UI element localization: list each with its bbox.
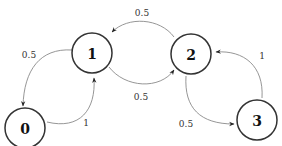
edge-2-to-1-path bbox=[112, 21, 174, 37]
edge-1-to-0-label: 0.5 bbox=[22, 50, 37, 60]
state-diagram: 0.5 1 0.5 0.5 0.5 1 0 1 2 3 bbox=[0, 0, 282, 146]
edge-1-to-2: 0.5 bbox=[109, 67, 174, 102]
node-3: 3 bbox=[237, 100, 277, 140]
edge-2-to-3-path bbox=[186, 76, 234, 124]
node-0: 0 bbox=[5, 108, 45, 146]
edge-0-to-1: 1 bbox=[47, 78, 94, 128]
node-3-label: 3 bbox=[252, 113, 262, 129]
node-1: 1 bbox=[72, 33, 112, 73]
node-1-label: 1 bbox=[87, 46, 97, 62]
edge-1-to-2-label: 0.5 bbox=[134, 92, 149, 102]
edge-2-to-3-label: 0.5 bbox=[179, 119, 194, 129]
edge-0-to-1-path bbox=[47, 78, 94, 124]
edge-0-to-1-label: 1 bbox=[83, 118, 89, 128]
edge-3-to-2-label: 1 bbox=[259, 51, 265, 61]
node-0-label: 0 bbox=[20, 121, 30, 137]
edge-1-to-0: 0.5 bbox=[22, 50, 72, 106]
edge-2-to-3: 0.5 bbox=[179, 76, 234, 129]
edge-3-to-2-path bbox=[216, 52, 262, 98]
edge-2-to-1-label: 0.5 bbox=[135, 8, 150, 18]
edge-2-to-1: 0.5 bbox=[112, 8, 174, 37]
node-2-label: 2 bbox=[186, 47, 196, 63]
edge-3-to-2: 1 bbox=[216, 51, 265, 98]
node-2: 2 bbox=[171, 34, 211, 74]
edge-1-to-2-path bbox=[109, 67, 174, 84]
